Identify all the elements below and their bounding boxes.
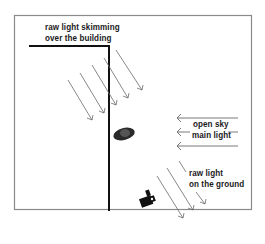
label-open-sky-line2: main light: [192, 129, 231, 140]
label-open-sky-line1: open sky: [193, 118, 229, 129]
label-ground-light-line2: on the ground: [189, 178, 244, 189]
label-ground-light-line1: raw light: [189, 167, 223, 178]
label-skimming-light-line2: over the building: [45, 32, 111, 43]
label-skimming-light-line1: raw light skimming: [45, 21, 120, 32]
